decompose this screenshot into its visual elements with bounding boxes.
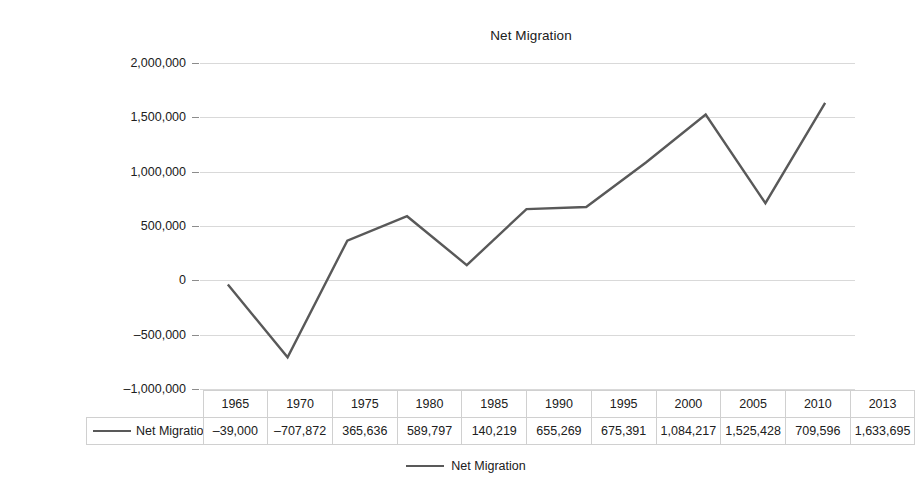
y-axis-tick-mark bbox=[192, 226, 199, 227]
y-axis-tick-label: –500,000 bbox=[94, 328, 186, 342]
chart-title: Net Migration bbox=[0, 28, 898, 43]
legend-label: Net Migration bbox=[451, 459, 525, 473]
table-column-header: 2010 bbox=[785, 391, 850, 418]
table-cell-value: 675,391 bbox=[591, 418, 656, 445]
y-axis-tick-mark bbox=[192, 335, 199, 336]
data-table: 1965197019751980198519901995200020052010… bbox=[86, 390, 915, 445]
legend: Net Migration bbox=[0, 459, 898, 473]
table-cell-value: –39,000 bbox=[203, 418, 268, 445]
table-cell-value: 655,269 bbox=[527, 418, 592, 445]
line-swatch-icon bbox=[93, 430, 131, 433]
y-axis-tick-marks bbox=[192, 63, 200, 389]
line-series-net-migration bbox=[200, 63, 855, 389]
table-cell-value: 589,797 bbox=[397, 418, 462, 445]
y-axis-tick-label: 1,000,000 bbox=[94, 165, 186, 179]
table-cell-value: 1,633,695 bbox=[850, 418, 915, 445]
legend-line-swatch-icon bbox=[406, 465, 444, 468]
table-column-header: 2013 bbox=[850, 391, 915, 418]
table-column-header: 1985 bbox=[462, 391, 527, 418]
y-axis-tick-mark bbox=[192, 172, 199, 173]
table-column-header: 2005 bbox=[721, 391, 786, 418]
table-cell-value: 365,636 bbox=[332, 418, 397, 445]
table-column-header: 1975 bbox=[332, 391, 397, 418]
table-cell-value: –707,872 bbox=[268, 418, 333, 445]
table-column-header: 1995 bbox=[591, 391, 656, 418]
table-row-header-cell: Net Migration bbox=[87, 418, 204, 445]
y-axis-tick-mark bbox=[192, 117, 199, 118]
y-axis-tick-mark bbox=[192, 280, 199, 281]
y-axis-labels: 2,000,0001,500,0001,000,000500,0000–500,… bbox=[94, 63, 186, 389]
table-column-header: 1970 bbox=[268, 391, 333, 418]
legend-entry-net-migration[interactable]: Net Migration bbox=[406, 459, 525, 473]
y-axis-tick-label: 2,000,000 bbox=[94, 56, 186, 70]
table-cell-value: 709,596 bbox=[785, 418, 850, 445]
table-column-header: 1980 bbox=[397, 391, 462, 418]
table-cell-value: 140,219 bbox=[462, 418, 527, 445]
table-corner-cell bbox=[87, 391, 204, 418]
table-column-header: 1965 bbox=[203, 391, 268, 418]
table-cell-value: 1,084,217 bbox=[656, 418, 721, 445]
y-axis-tick-mark bbox=[192, 63, 199, 64]
table-column-header: 2000 bbox=[656, 391, 721, 418]
plot-area bbox=[200, 63, 855, 389]
table-row-header: 1965197019751980198519901995200020052010… bbox=[87, 391, 915, 418]
table-row: Net Migration –39,000–707,872365,636589,… bbox=[87, 418, 915, 445]
table-cell-value: 1,525,428 bbox=[721, 418, 786, 445]
y-axis-tick-label: 0 bbox=[94, 273, 186, 287]
chart-title-text: Net Migration bbox=[490, 28, 572, 43]
series-swatch-wrap: Net Migration bbox=[87, 424, 201, 438]
y-axis-tick-label: 1,500,000 bbox=[94, 110, 186, 124]
table-row-header-label: Net Migration bbox=[136, 424, 203, 438]
table-column-header: 1990 bbox=[527, 391, 592, 418]
series-line-net-migration bbox=[228, 103, 825, 357]
y-axis-tick-label: 500,000 bbox=[94, 219, 186, 233]
